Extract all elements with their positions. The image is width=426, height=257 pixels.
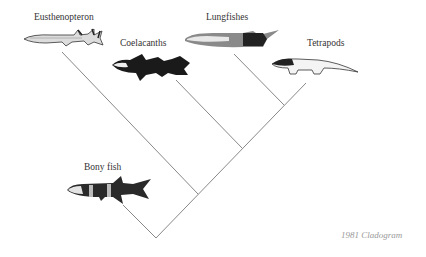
coelacanth-fish-icon	[110, 51, 192, 83]
tetrapod-icon	[270, 56, 360, 78]
taxon-label-coelacanths: Coelacanths	[120, 38, 166, 48]
taxon-label-bony-fish: Bony fish	[84, 162, 121, 172]
taxon-label-eusthenopteron: Eusthenopteron	[34, 12, 94, 22]
diagram-caption: 1981 Cladogram	[341, 230, 402, 240]
taxon-label-tetrapods: Tetrapods	[307, 38, 344, 48]
bony-fish-icon	[65, 175, 155, 207]
taxon-label-lungfishes: Lungfishes	[206, 12, 248, 22]
lungfish-fish-icon	[183, 29, 281, 51]
eusthenopteron-fish-icon	[22, 27, 104, 49]
